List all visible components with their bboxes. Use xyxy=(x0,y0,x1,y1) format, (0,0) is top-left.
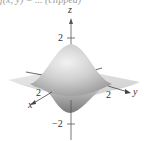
x-tick-2: 2 xyxy=(36,88,41,98)
z-axis-label: z xyxy=(68,5,72,15)
surface-plot xyxy=(0,0,148,141)
z-tick-2: 2 xyxy=(58,33,63,43)
x-axis-label: x xyxy=(28,100,32,110)
z-tick-neg2: −2 xyxy=(52,119,63,129)
y-axis-label: y xyxy=(133,87,137,97)
y-tick-2: 2 xyxy=(106,90,111,100)
y-axis-arrow-icon xyxy=(125,89,131,94)
z-axis-arrow-icon xyxy=(69,18,73,24)
surface-peak xyxy=(30,44,112,96)
